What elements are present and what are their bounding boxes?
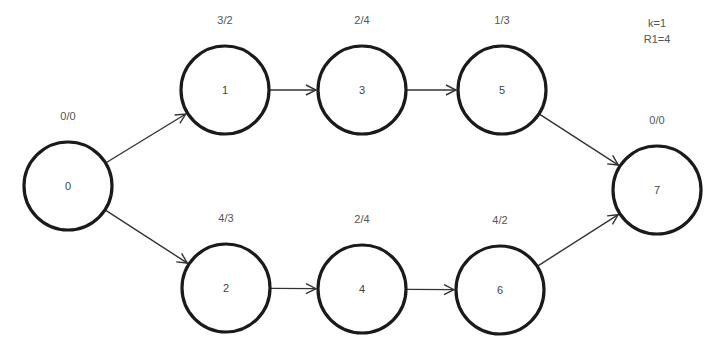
parameter-label: R1=4 xyxy=(644,33,671,45)
node-weight-label: 3/2 xyxy=(217,14,232,26)
node-label: 1 xyxy=(222,84,228,96)
network-diagram: 00/013/232/451/324/342/464/270/0 k=1R1=4 xyxy=(0,0,713,356)
node-4: 42/4 xyxy=(318,213,406,333)
node-weight-label: 2/4 xyxy=(354,213,369,225)
node-3: 32/4 xyxy=(318,14,406,134)
node-2: 24/3 xyxy=(182,212,270,332)
node-0: 00/0 xyxy=(24,110,112,230)
node-weight-label: 1/3 xyxy=(494,14,509,26)
node-label: 2 xyxy=(223,282,229,294)
node-1: 13/2 xyxy=(181,14,269,134)
node-label: 7 xyxy=(654,184,660,196)
node-5: 51/3 xyxy=(458,14,546,134)
nodes-layer: 00/013/232/451/324/342/464/270/0 xyxy=(24,14,701,334)
parameter-label: k=1 xyxy=(648,17,666,29)
node-label: 5 xyxy=(499,84,505,96)
edge-0-to-2 xyxy=(106,210,188,263)
edge-0-to-1 xyxy=(106,114,185,163)
node-label: 6 xyxy=(497,284,503,296)
node-weight-label: 0/0 xyxy=(60,110,75,122)
node-label: 4 xyxy=(359,283,365,295)
node-7: 70/0 xyxy=(613,114,701,234)
node-6: 64/2 xyxy=(456,214,544,334)
node-label: 0 xyxy=(65,180,71,192)
parameters-annotation: k=1R1=4 xyxy=(644,17,671,45)
node-weight-label: 4/2 xyxy=(492,214,507,226)
node-weight-label: 4/3 xyxy=(218,212,233,224)
node-label: 3 xyxy=(359,84,365,96)
node-weight-label: 0/0 xyxy=(649,114,664,126)
edge-5-to-7 xyxy=(540,114,619,165)
edge-6-to-7 xyxy=(538,215,618,266)
node-weight-label: 2/4 xyxy=(354,14,369,26)
